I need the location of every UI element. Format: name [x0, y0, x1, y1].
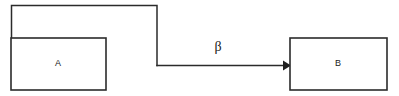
diagram-svg: A B β — [0, 0, 399, 96]
block-diagram-canvas: A B β — [0, 0, 399, 96]
block-b-label: B — [335, 58, 341, 68]
edge-label-beta: β — [214, 39, 221, 54]
block-a-label: A — [55, 58, 61, 68]
